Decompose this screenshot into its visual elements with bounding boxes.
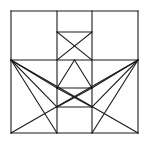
figure-canvas (0, 0, 150, 146)
figure-line-group (11, 11, 138, 133)
segment-left-fan-to-base (11, 60, 57, 133)
segment-right-fan-to-base (92, 60, 138, 133)
geometric-figure (0, 0, 150, 146)
segment-mid-v-right (75, 60, 93, 88)
segment-mid-v-left (57, 60, 75, 88)
